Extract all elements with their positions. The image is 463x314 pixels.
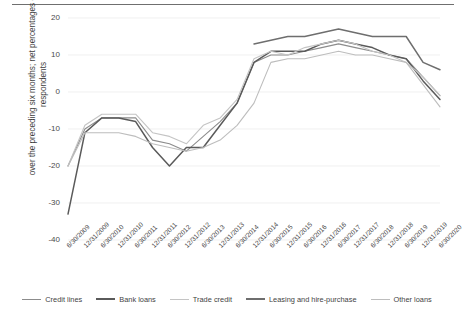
legend-line-swatch [246,298,265,300]
legend-label: Leasing and hire-purchase [269,295,357,304]
legend-item[interactable]: Other loans [371,295,432,304]
x-axis-tick-labels: 6/30/200912/31/20096/30/201012/31/20106/… [0,242,454,288]
legend-line-swatch [170,299,189,300]
legend-label: Trade credit [193,295,232,304]
legend-item[interactable]: Bank loans [96,295,156,304]
y-axis-tick-label: -10 [34,124,60,133]
series-lines-svg [68,18,440,240]
legend-label: Credit lines [45,295,82,304]
series-line-leasing-and-hire-purchase [254,29,440,70]
series-line-other-loans [68,51,440,166]
chart-legend: Credit linesBank loansTrade creditLeasin… [0,291,454,307]
legend-label: Bank loans [119,295,156,304]
y-axis-tick-label: -30 [34,198,60,207]
legend-line-swatch [371,299,390,300]
series-line-bank-loans [68,40,440,214]
plot-area [68,18,440,240]
legend-line-swatch [22,299,41,300]
legend-label: Other loans [394,295,432,304]
y-axis-tick-label: 20 [34,13,60,22]
legend-item[interactable]: Credit lines [22,295,82,304]
y-axis-tick-label: 0 [34,87,60,96]
y-axis-tick-label: -20 [34,161,60,170]
legend-item[interactable]: Leasing and hire-purchase [246,295,357,304]
legend-item[interactable]: Trade credit [170,295,232,304]
top-divider-rule [12,4,454,5]
y-axis-tick-label: 10 [34,50,60,59]
legend-line-swatch [96,298,115,300]
